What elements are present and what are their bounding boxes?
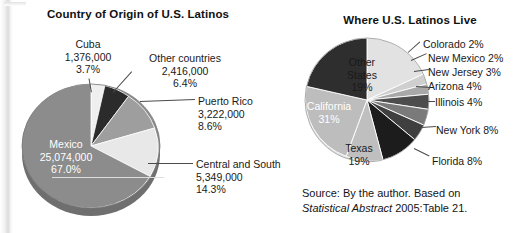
right-label-new-mexico: New Mexico 2% — [428, 52, 503, 65]
left-label-mexico-pct: 67.0% — [16, 163, 116, 176]
right-label-illinois: Illinois 4% — [435, 96, 482, 109]
right-leader-illinois — [419, 101, 435, 102]
left-label-other-name: Other countries — [132, 52, 238, 65]
source-note: Source: By the author. Based on Statisti… — [302, 186, 517, 216]
left-label-other-pct: 6.4% — [132, 77, 238, 90]
left-label-cs-count: 5,349,000 — [196, 171, 276, 184]
right-label-arizona: Arizona 4% — [428, 80, 482, 93]
right-label-other-states-pct: 19% — [336, 81, 388, 94]
right-label-california: California 31% — [300, 100, 358, 125]
left-label-pr-count: 3,222,000 — [198, 108, 264, 121]
left-label-cs-pct: 14.3% — [196, 183, 276, 196]
left-label-mexico-name: Mexico — [16, 138, 116, 151]
left-label-mexico-count: 25,074,000 — [16, 151, 116, 164]
right-label-florida: Florida 8% — [432, 155, 482, 168]
left-label-cs-name: Central and South — [196, 158, 280, 171]
source-line-1: Source: By the author. Based on — [302, 186, 517, 201]
left-label-cuba: Cuba 1,376,000 3.7% — [46, 38, 130, 76]
left-label-cuba-name: Cuba — [46, 38, 130, 51]
right-pie-figure: Where U.S. Latinos Live — [280, 0, 532, 233]
left-label-cuba-pct: 3.7% — [46, 63, 130, 76]
right-label-texas-pct: 19% — [337, 155, 381, 168]
left-chart-title: Country of Origin of U.S. Latinos — [24, 8, 252, 20]
right-label-other-states-l2: States — [336, 69, 388, 82]
left-label-puerto-rico: Puerto Rico 3,222,000 8.6% — [198, 95, 278, 133]
left-label-cuba-count: 1,376,000 — [46, 51, 130, 64]
right-label-california-pct: 31% — [300, 113, 358, 126]
left-leader-mexico — [52, 177, 164, 178]
left-label-pr-name: Puerto Rico — [198, 95, 278, 108]
right-label-new-york: New York 8% — [436, 124, 498, 137]
source-italic-title: Statistical Abstract — [302, 202, 392, 214]
source-line-2: Statistical Abstract 2005:Table 21. — [302, 201, 517, 216]
left-pie-figure: Country of Origin of U.S. Latinos — [0, 0, 280, 233]
left-label-mexico: Mexico 25,074,000 67.0% — [16, 138, 116, 176]
source-rest: 2005:Table 21. — [392, 202, 467, 214]
left-label-other-count: 2,416,000 — [132, 65, 238, 78]
right-label-other-states-l1: Other — [336, 56, 388, 69]
left-label-pr-pct: 8.6% — [198, 120, 264, 133]
figure-page: Country of Origin of U.S. Latinos — [0, 0, 532, 233]
right-label-texas-name: Texas — [337, 142, 381, 155]
left-label-central-south: Central and South 5,349,000 14.3% — [196, 158, 280, 196]
left-leader-central-south — [148, 163, 193, 164]
right-label-new-jersey: New Jersey 3% — [428, 66, 501, 79]
right-label-texas: Texas 19% — [337, 142, 381, 167]
left-label-other: Other countries 2,416,000 6.4% — [132, 52, 238, 90]
right-label-other-states: Other States 19% — [336, 56, 388, 94]
right-label-california-name: California — [300, 100, 358, 113]
right-label-colorado: Colorado 2% — [423, 38, 484, 51]
right-chart-title: Where U.S. Latinos Live — [330, 14, 490, 26]
